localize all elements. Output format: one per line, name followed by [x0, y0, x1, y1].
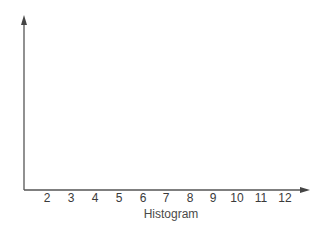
- x-tick-label: 11: [255, 191, 267, 205]
- x-tick-label: 7: [163, 191, 170, 205]
- x-tick-label: 2: [44, 191, 51, 205]
- x-tick-label: 6: [140, 191, 147, 205]
- x-tick-label: 3: [68, 191, 75, 205]
- x-tick-label: 10: [230, 191, 243, 205]
- x-tick-label: 4: [92, 191, 99, 205]
- x-tick-label: 5: [116, 191, 123, 205]
- x-tick-label: 12: [278, 191, 291, 205]
- y-axis-arrow-icon: [21, 15, 27, 25]
- x-axis-arrow-icon: [300, 187, 310, 193]
- x-axis-label: Histogram: [144, 207, 199, 221]
- x-tick-label: 9: [210, 191, 217, 205]
- x-tick-label: 8: [187, 191, 194, 205]
